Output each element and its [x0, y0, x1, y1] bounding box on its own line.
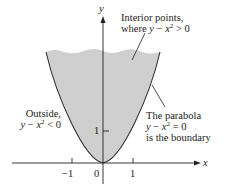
x-axis-arrow-icon: [194, 161, 201, 166]
outside-annotation: Outside, y − x2 < 0: [8, 108, 61, 130]
interior-annotation: Interior points, where y − x2 > 0: [121, 12, 190, 34]
boundary-line1: The parabola: [146, 110, 211, 121]
diagram-canvas: [0, 0, 225, 188]
x-tick-label-neg1: −1: [62, 168, 73, 179]
y-axis-label: y: [99, 3, 104, 14]
x-tick-label-1: 1: [130, 168, 135, 179]
x-axis-label: x: [203, 157, 208, 168]
y-axis-arrow-icon: [101, 16, 106, 23]
outside-line2: y − x2 < 0: [8, 119, 61, 130]
boundary-leader-line: [152, 85, 165, 107]
y-tick-label-1: 1: [94, 125, 99, 136]
interior-line1: Interior points,: [121, 12, 190, 23]
boundary-line2: y − x2 = 0: [146, 121, 211, 132]
boundary-line3: is the boundary: [146, 132, 211, 143]
outside-line1: Outside,: [8, 108, 61, 119]
boundary-annotation: The parabola y − x2 = 0 is the boundary: [146, 110, 211, 143]
interior-line2: where y − x2 > 0: [121, 23, 190, 34]
x-tick-label-0: 0: [94, 168, 99, 179]
